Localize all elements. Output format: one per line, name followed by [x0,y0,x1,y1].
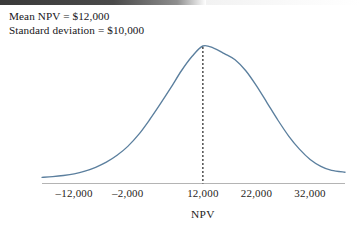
x-tick-label: –2,000 [112,187,143,199]
x-axis-title: NPV [191,208,215,220]
chart-figure: Mean NPV = $12,000 Standard deviation = … [0,0,360,233]
x-tick-label: 22,000 [241,187,272,199]
x-tick-label: 12,000 [187,187,218,199]
x-tick-label: –12,000 [56,187,93,199]
x-tick-label: 32,000 [294,187,325,199]
normal-distribution-curve [42,46,345,178]
